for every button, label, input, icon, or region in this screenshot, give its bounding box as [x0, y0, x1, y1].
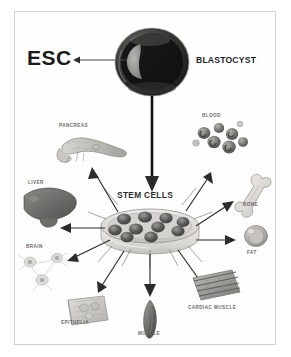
- arrow-to-muscle: [144, 254, 156, 297]
- brain-label: BRAIN: [26, 245, 43, 250]
- cardiac-muscle-label: CARDIAC MUSCLE: [188, 306, 236, 311]
- stem-cell-differentiation-figure: ESC BLASTOCYST STEM CELLS PANCREAS BLOOD…: [0, 0, 291, 357]
- esc-label: ESC: [27, 47, 72, 68]
- stem-cells-label: STEM CELLS: [117, 191, 173, 199]
- blood-label: BLOOD: [202, 114, 221, 119]
- cardiac-muscle-icon: [193, 270, 240, 300]
- muscle-label: MUSCLE: [138, 332, 160, 337]
- liver-label: LIVER: [28, 181, 44, 186]
- arrow-to-blood: [186, 172, 213, 211]
- blood-cells-icon: [193, 121, 248, 153]
- arrow-to-epithelia: [97, 251, 124, 293]
- arrow-to-bone: [196, 201, 234, 226]
- liver-icon: [24, 188, 76, 227]
- neuron-icon: [18, 253, 68, 291]
- pancreas-label: PANCREAS: [59, 124, 88, 129]
- blastocyst-label: BLASTOCYST: [196, 56, 256, 65]
- arrow-to-pancreas: [88, 167, 118, 212]
- adipocyte-icon: [245, 226, 268, 247]
- petri-dish: [101, 209, 199, 254]
- blastocyst-to-stemcells-arrow: [145, 96, 159, 192]
- bone-label: BONE: [243, 203, 258, 208]
- bone-icon: [235, 174, 271, 217]
- arrow-to-liver: [60, 223, 105, 233]
- epithelia-label: EPITHELIA: [61, 321, 89, 326]
- arrow-to-brain: [67, 240, 110, 262]
- pancreas-icon: [57, 138, 127, 163]
- fat-label: FAT: [247, 251, 257, 256]
- arrow-to-fat: [196, 235, 236, 245]
- blastocyst-icon: [115, 28, 189, 96]
